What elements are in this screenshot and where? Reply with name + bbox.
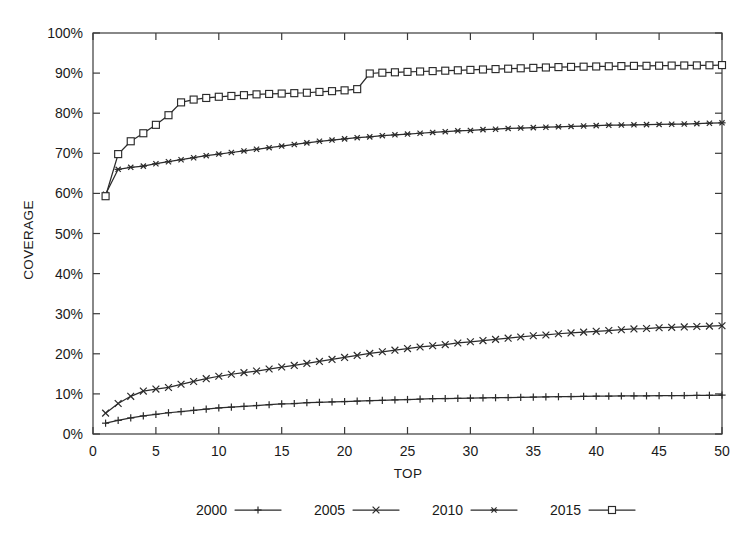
- data-point-marker-square: [354, 86, 361, 93]
- data-point-marker-square: [240, 92, 247, 99]
- y-tick-label: 70%: [55, 145, 83, 161]
- y-tick-label: 50%: [55, 226, 83, 242]
- data-point-marker-square: [442, 67, 449, 74]
- data-point-marker-square: [253, 91, 260, 98]
- y-tick-label: 20%: [55, 346, 83, 362]
- x-tick-label: 10: [211, 443, 227, 459]
- y-tick-label: 10%: [55, 386, 83, 402]
- y-tick-label: 60%: [55, 185, 83, 201]
- data-point-marker-square: [593, 63, 600, 70]
- data-point-marker-square: [530, 64, 537, 71]
- data-point-marker-square: [291, 90, 298, 97]
- data-point-marker-square: [492, 66, 499, 73]
- x-tick-label: 35: [526, 443, 542, 459]
- data-point-marker-square: [140, 130, 147, 137]
- legend-label-2005[interactable]: 2005: [314, 502, 345, 518]
- chart-figure: 0%10%20%30%40%50%60%70%80%90%100% 051015…: [0, 0, 746, 546]
- data-point-marker-square: [127, 138, 134, 145]
- legend-label-2000[interactable]: 2000: [196, 502, 227, 518]
- x-tick-label: 20: [337, 443, 353, 459]
- data-point-marker-square: [517, 65, 524, 72]
- y-tick-label: 30%: [55, 306, 83, 322]
- data-point-marker-square: [115, 151, 122, 158]
- data-point-marker-square: [656, 62, 663, 69]
- data-point-marker-square: [668, 62, 675, 69]
- data-point-marker-square: [341, 87, 348, 94]
- legend-label-2010[interactable]: 2010: [432, 502, 463, 518]
- chart-background: [0, 0, 746, 546]
- data-point-marker-square: [366, 70, 373, 77]
- x-axis-title: TOP: [394, 466, 423, 481]
- data-point-marker-square: [505, 65, 512, 72]
- data-point-marker-square: [379, 69, 386, 76]
- data-point-marker-square: [681, 62, 688, 69]
- x-tick-label: 50: [714, 443, 730, 459]
- data-point-marker-square: [215, 93, 222, 100]
- y-tick-label: 80%: [55, 105, 83, 121]
- data-point-marker-square: [719, 62, 726, 69]
- data-point-marker-square: [693, 62, 700, 69]
- data-point-marker-square: [618, 63, 625, 70]
- data-point-marker-square: [228, 92, 235, 99]
- data-point-marker-square: [706, 62, 713, 69]
- y-tick-label: 100%: [47, 25, 83, 41]
- data-point-marker-square: [190, 96, 197, 103]
- data-point-marker-square: [605, 63, 612, 70]
- y-axis-title: COVERAGE: [21, 200, 36, 280]
- data-point-marker-square: [203, 94, 210, 101]
- data-point-marker-square: [391, 69, 398, 76]
- data-point-marker-square: [102, 193, 109, 200]
- data-point-marker-square: [329, 88, 336, 95]
- x-tick-label: 5: [152, 443, 160, 459]
- data-point-marker-square: [630, 62, 637, 69]
- data-point-marker-square: [316, 88, 323, 95]
- x-tick-label: 0: [89, 443, 97, 459]
- data-point-marker-square: [467, 66, 474, 73]
- data-point-marker-square: [643, 62, 650, 69]
- data-point-marker-square: [404, 68, 411, 75]
- legend-label-2015[interactable]: 2015: [550, 502, 581, 518]
- y-tick-label: 0%: [63, 426, 83, 442]
- data-point-marker-square: [152, 121, 159, 128]
- data-point-marker-square: [580, 63, 587, 70]
- y-tick-label: 40%: [55, 266, 83, 282]
- data-point-marker-square: [609, 507, 616, 514]
- data-point-marker-square: [303, 89, 310, 96]
- coverage-line-chart: 0%10%20%30%40%50%60%70%80%90%100% 051015…: [0, 0, 746, 546]
- data-point-marker-square: [266, 90, 273, 97]
- data-point-marker-square: [568, 63, 575, 70]
- x-tick-label: 30: [463, 443, 479, 459]
- data-point-marker-square: [542, 64, 549, 71]
- data-point-marker-square: [165, 112, 172, 119]
- data-point-marker-square: [429, 68, 436, 75]
- y-tick-label: 90%: [55, 65, 83, 81]
- data-point-marker-square: [479, 66, 486, 73]
- x-tick-label: 45: [651, 443, 667, 459]
- data-point-marker-square: [454, 67, 461, 74]
- x-tick-label: 15: [274, 443, 290, 459]
- data-point-marker-square: [278, 90, 285, 97]
- data-point-marker-square: [178, 99, 185, 106]
- x-tick-label: 25: [400, 443, 416, 459]
- x-tick-label: 40: [588, 443, 604, 459]
- data-point-marker-square: [555, 64, 562, 71]
- data-point-marker-square: [417, 68, 424, 75]
